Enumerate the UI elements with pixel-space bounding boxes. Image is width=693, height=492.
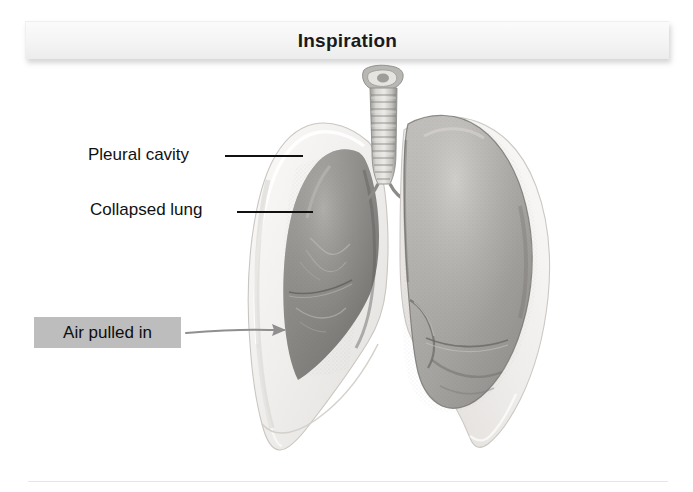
callout-air-pulled-in: Air pulled in	[34, 317, 181, 348]
bottom-divider	[28, 481, 668, 482]
figure-page: Inspiration	[0, 0, 693, 492]
label-pleural-cavity: Pleural cavity	[88, 146, 189, 163]
leader-line-pleural-cavity	[225, 155, 303, 157]
label-air-pulled-in: Air pulled in	[63, 323, 152, 343]
leader-line-collapsed-lung	[237, 211, 313, 213]
label-collapsed-lung: Collapsed lung	[90, 201, 202, 218]
lung-illustration	[0, 0, 693, 492]
